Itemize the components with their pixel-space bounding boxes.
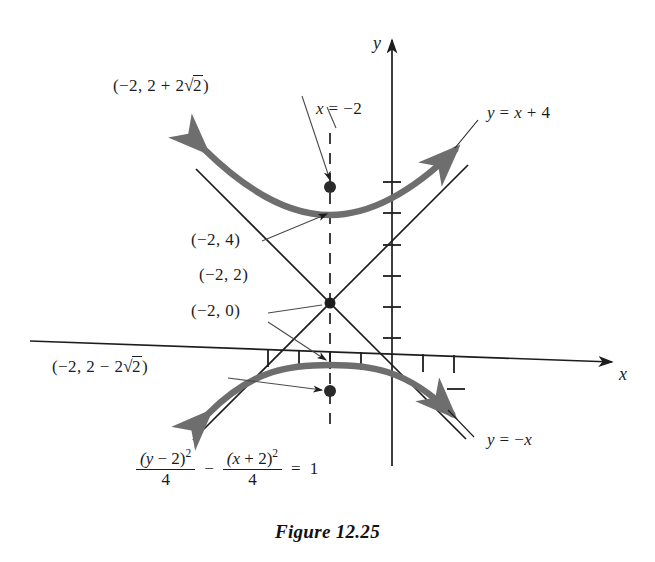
exponent-right: 2 xyxy=(272,447,278,460)
exponent-left: 2 xyxy=(185,447,191,460)
equation-rhs: 1 xyxy=(310,459,319,479)
hyperbola-equation: (y − 2)2 4 − (x + 2)2 4 = 1 xyxy=(136,448,318,490)
equation-denominator-left: 4 xyxy=(157,470,174,489)
label-upper-vertex: (−2, 4) xyxy=(191,230,240,250)
y-axis-label: y xyxy=(373,33,381,54)
label-lower-vertex: (−2, 0) xyxy=(191,301,240,321)
equation-fraction-left: (y − 2)2 4 xyxy=(136,448,195,490)
equation-denominator-right: 4 xyxy=(244,470,261,489)
x-axis-label: x xyxy=(619,364,627,385)
hyperbola-plot xyxy=(0,0,655,562)
point-center xyxy=(325,298,336,309)
label-asymptote-positive: y = x + 4 xyxy=(487,103,550,123)
equation-fraction-right: (x + 2)2 4 xyxy=(223,448,282,490)
y-axis xyxy=(383,40,465,466)
equation-numerator-left: (y − 2)2 xyxy=(136,448,195,469)
leader-center xyxy=(268,305,322,313)
label-center: (−2, 2) xyxy=(199,265,248,285)
equation-equals: = xyxy=(288,459,304,479)
point-upper-focus xyxy=(324,181,336,193)
figure-container: y x (−2, 2 + 2√2) x = −2 (−2, 4) (−2, 2)… xyxy=(0,0,655,562)
label-lower-focus: (−2, 2 − 2√2) xyxy=(52,357,148,377)
point-lower-focus xyxy=(324,385,336,397)
label-asymptote-negative: y = −x xyxy=(487,430,532,450)
leader-lower-vertex xyxy=(268,322,326,360)
leader-asymptote-positive xyxy=(455,120,478,148)
equation-numerator-right: (x + 2)2 xyxy=(223,448,282,469)
label-dashed-line: x = −2 xyxy=(316,99,362,119)
label-upper-focus: (−2, 2 + 2√2) xyxy=(113,76,209,96)
equation-operator: − xyxy=(201,459,217,479)
figure-caption: Figure 12.25 xyxy=(0,521,655,543)
leader-upper-vertex xyxy=(262,214,327,241)
